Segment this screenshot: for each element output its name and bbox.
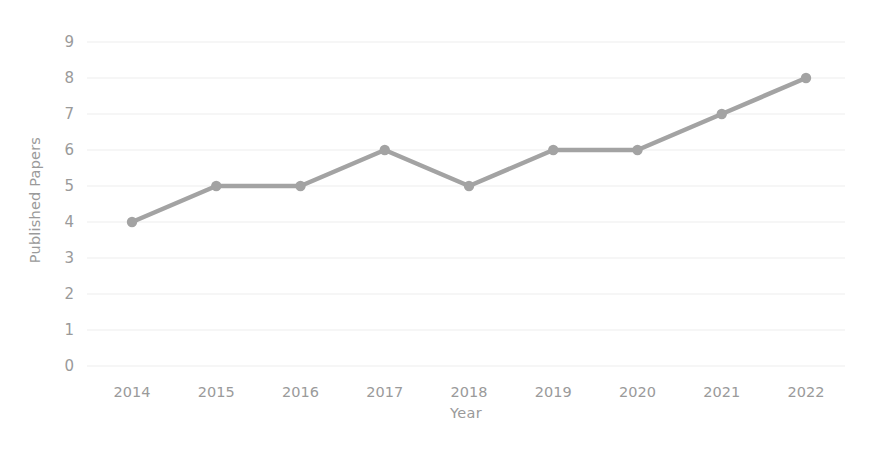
x-axis-tick-labels: 201420152016201720182019202020212022 (0, 383, 872, 405)
y-axis-title: Published Papers (20, 20, 50, 380)
x-axis-title-text: Year (450, 405, 482, 421)
data-point-marker (801, 73, 811, 83)
y-axis-tick-label: 2 (48, 287, 74, 302)
data-point-marker (211, 181, 221, 191)
line-chart: 0123456789 20142015201620172018201920202… (0, 0, 872, 460)
x-axis-tick-label: 2017 (366, 383, 403, 402)
x-axis-tick-label: 2021 (703, 383, 740, 402)
data-point-marker (380, 145, 390, 155)
y-axis-title-text: Published Papers (27, 137, 43, 263)
x-axis-tick-label: 2016 (282, 383, 319, 402)
gridlines (87, 42, 845, 366)
data-point-marker (548, 145, 558, 155)
x-axis-tick-label: 2014 (114, 383, 151, 402)
data-point-marker (717, 109, 727, 119)
x-axis-tick-label: 2015 (198, 383, 235, 402)
y-axis-tick-label: 7 (48, 107, 74, 122)
y-axis-tick-label: 3 (48, 251, 74, 266)
y-axis-tick-label: 6 (48, 143, 74, 158)
y-axis-tick-label: 5 (48, 179, 74, 194)
x-axis-tick-label: 2018 (451, 383, 488, 402)
data-point-marker (127, 217, 137, 227)
x-axis-tick-label: 2022 (788, 383, 825, 402)
y-axis-tick-label: 4 (48, 215, 74, 230)
x-axis-tick-label: 2020 (619, 383, 656, 402)
data-point-marker (295, 181, 305, 191)
y-axis-tick-label: 0 (48, 359, 74, 374)
data-point-marker (464, 181, 474, 191)
data-point-marker (632, 145, 642, 155)
y-axis-tick-label: 1 (48, 323, 74, 338)
x-axis-title: Year (87, 405, 845, 421)
x-axis-tick-label: 2019 (535, 383, 572, 402)
y-axis-tick-label: 8 (48, 71, 74, 86)
y-axis-tick-label: 9 (48, 35, 74, 50)
